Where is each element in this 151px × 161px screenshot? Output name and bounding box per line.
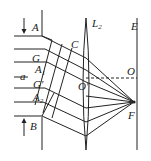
label-g-prime: G′ — [33, 78, 44, 90]
label-a1: A1 — [34, 63, 45, 77]
label-l2: L2 — [91, 17, 102, 31]
label-b: B — [30, 120, 37, 132]
diagram-canvas: A G A1 a G′ A2 B C L2 E O O′ F — [0, 0, 151, 161]
focal-point — [132, 100, 135, 103]
label-e: E — [130, 20, 138, 32]
label-o-prime: O′ — [78, 80, 89, 92]
label-o: O — [127, 65, 135, 77]
label-a2: A2 — [32, 91, 44, 105]
label-axis-a: a — [20, 70, 26, 82]
label-c: C — [71, 38, 79, 50]
label-a: A — [31, 21, 39, 33]
lens-diagram: A G A1 a G′ A2 B C L2 E O O′ F — [0, 0, 151, 161]
label-f: F — [127, 109, 135, 121]
